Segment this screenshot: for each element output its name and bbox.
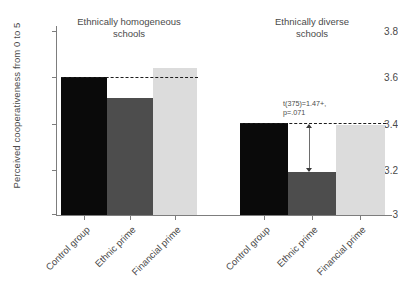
y-tick-mark-3.2 — [52, 170, 56, 171]
bar-diverse-control-group — [240, 123, 288, 215]
x-tick-mark-homogeneous-ethnic-prime — [130, 216, 131, 220]
x-tick-mark-diverse-control-group — [264, 216, 265, 220]
panel-title-homogeneous: Ethnically homogeneous schools — [62, 16, 196, 40]
y-tick-label-3.8: 3.8 — [372, 26, 398, 37]
reference-line-diverse — [240, 123, 386, 124]
chart-figure: Perceived cooperativeness from 0 to 5 3.… — [0, 0, 398, 291]
x-tick-mark-homogeneous-financial-prime — [175, 216, 176, 220]
y-tick-mark-3.8 — [52, 31, 56, 32]
y-axis-title: Perceived cooperativeness from 0 to 5 — [11, 6, 22, 206]
x-tick-mark-diverse-financial-prime — [360, 216, 361, 220]
reference-line-homogeneous — [61, 77, 198, 78]
y-axis-line — [56, 26, 57, 216]
difference-arrow-head-up — [306, 124, 312, 128]
x-tick-mark-homogeneous-control-group — [84, 216, 85, 220]
bar-diverse-financial-prime — [336, 125, 385, 215]
y-tick-mark-3.6 — [52, 77, 56, 78]
y-tick-mark-3.4 — [52, 124, 56, 125]
difference-arrow-line — [309, 125, 310, 171]
panel-title-diverse: Ethnically diverse schools — [251, 16, 373, 40]
bar-homogeneous-financial-prime — [153, 68, 197, 215]
x-axis-line — [56, 215, 392, 216]
y-tick-label-3.6: 3.6 — [372, 72, 398, 83]
bar-homogeneous-control-group — [61, 77, 107, 215]
significance-annotation-diverse: t(375)=1.47+, p=.071 — [283, 99, 326, 117]
x-tick-mark-diverse-ethnic-prime — [312, 216, 313, 220]
bar-diverse-ethnic-prime — [288, 172, 336, 215]
difference-arrow-head-down — [306, 168, 312, 172]
bar-homogeneous-ethnic-prime — [107, 98, 153, 215]
